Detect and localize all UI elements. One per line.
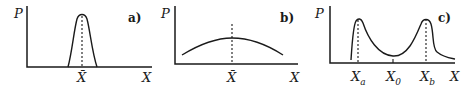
- panel-a-mean-label: X̄: [76, 70, 87, 85]
- panel-c-tag: c): [438, 11, 451, 25]
- panel-c-axes: [330, 6, 455, 63]
- panel-b-x-label: X: [289, 70, 300, 85]
- panel-a: P a) X̄ X: [13, 6, 152, 85]
- panel-a-x-label: X: [141, 70, 152, 85]
- panel-c-bimodal-curve: [351, 19, 455, 60]
- panel-c-x0-label: X0: [385, 69, 401, 87]
- panel-a-tag: a): [128, 11, 141, 25]
- panel-b: P b) X̄ X: [160, 6, 300, 85]
- panel-b-tag: b): [280, 11, 294, 25]
- panel-c: P c) Xa X0 Xb X: [314, 6, 460, 87]
- panel-a-y-label: P: [13, 6, 23, 21]
- panel-c-xa-label: Xa: [350, 69, 366, 87]
- panel-b-y-label: P: [160, 6, 170, 21]
- panel-c-xb-label: Xb: [419, 69, 435, 87]
- panel-c-y-label: P: [314, 6, 324, 21]
- distribution-diagram: P a) X̄ X P b) X̄ X P c) Xa X0 Xb X: [0, 0, 471, 89]
- panel-b-mean-label: X̄: [226, 70, 237, 85]
- panel-c-x-label: X: [449, 69, 460, 84]
